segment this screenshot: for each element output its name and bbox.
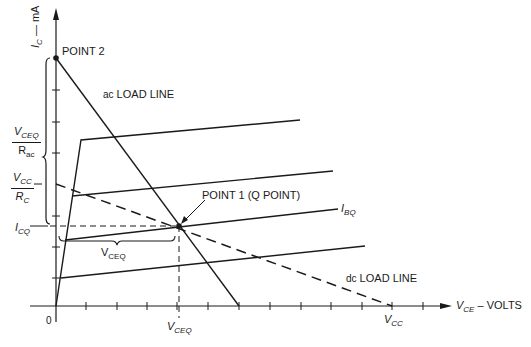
vceq-axis-label: VCEQ xyxy=(167,321,192,335)
icq-label: ICQ xyxy=(15,222,30,236)
q-point-marker xyxy=(176,223,182,229)
point-2-label: POINT 2 xyxy=(62,46,105,57)
ib-curve-4 xyxy=(56,120,300,306)
ibq-label: IBQ xyxy=(341,203,356,217)
vceq-brace-label: VCEQ xyxy=(101,247,126,261)
point-1-label: POINT 1 (Q POINT) xyxy=(202,190,300,201)
origin-label: 0 xyxy=(46,316,52,326)
y-axis-arrow-icon xyxy=(53,8,59,20)
dc-load-line-label: dc LOAD LINE xyxy=(346,273,417,284)
characteristic-curves xyxy=(56,120,365,306)
x-axis xyxy=(30,302,452,310)
x-axis-arrow-icon xyxy=(440,303,452,309)
ac-load-line-label: ac LOAD LINE xyxy=(103,89,174,100)
point-2-marker xyxy=(53,55,59,61)
brace-vceq-over-rac xyxy=(43,58,50,224)
brace-vceq xyxy=(59,236,175,245)
ib-curve-ibq xyxy=(65,209,338,240)
y-axis-label: IC — mA xyxy=(29,6,44,48)
x-axis-label: VCE – VOLTS xyxy=(456,300,522,314)
y-axis xyxy=(52,8,60,322)
vcc-axis-label: VCC xyxy=(384,314,403,328)
vcc-over-rc-label: VCC RC xyxy=(11,172,34,205)
vceq-over-rac-label: VCEQ Rac xyxy=(12,126,41,159)
q-point-pointer xyxy=(181,200,205,224)
